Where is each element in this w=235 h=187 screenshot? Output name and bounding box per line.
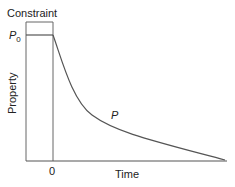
curve-label: P (111, 109, 119, 121)
constraint-bracket (26, 22, 53, 161)
relaxation-diagram: Constraint P0 Property 0 Time P (0, 0, 235, 187)
x-axis-label: Time (115, 168, 139, 180)
p0-label: P0 (9, 29, 21, 44)
zero-tick-label: 0 (49, 165, 55, 177)
property-decay-curve (53, 35, 225, 160)
constraint-label: Constraint (7, 7, 57, 19)
y-axis-label: Property (6, 72, 18, 114)
